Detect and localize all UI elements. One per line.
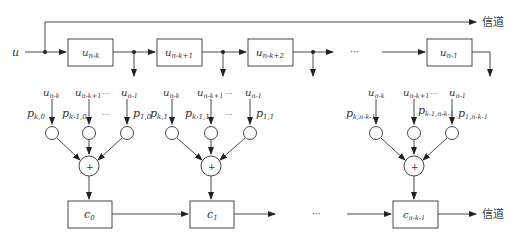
- multiplier-circle: [244, 127, 257, 140]
- svg-text:un-k+1: un-k+1: [197, 87, 223, 100]
- multiplier-circle: [46, 127, 59, 140]
- svg-text:un-k: un-k: [43, 87, 60, 100]
- svg-text:+: +: [86, 162, 94, 172]
- svg-text:un-k+1: un-k+1: [403, 87, 429, 100]
- svg-text:+: +: [208, 162, 216, 172]
- svg-text:p1,1: p1,1: [256, 107, 274, 121]
- svg-text:···: ···: [225, 110, 233, 119]
- svg-text:···: ···: [102, 110, 110, 119]
- input-label: u: [12, 46, 19, 59]
- parity-group-0: + un-k un-k+1 ··· un-1 pk,0 pk-1,0 ··· p…: [27, 87, 188, 228]
- svg-text:un-1: un-1: [121, 87, 138, 100]
- multiplier-circle: [166, 127, 179, 140]
- svg-text:c0: c0: [84, 208, 95, 222]
- ellipsis-bottom: ···: [312, 209, 321, 219]
- svg-text:un-k: un-k: [163, 87, 180, 100]
- svg-text:pk,1: pk,1: [150, 107, 168, 121]
- svg-text:un-k: un-k: [368, 87, 385, 100]
- svg-text:pk-1,0: pk-1,0: [62, 107, 87, 121]
- svg-text:un-1: un-1: [449, 87, 466, 100]
- parity-group-last: + un-k un-k+1 ··· un-1 pk,n-k-1 pk-1,n-k…: [346, 87, 488, 228]
- multiplier-circle: [408, 127, 421, 140]
- svg-text:pk,0: pk,0: [27, 107, 46, 121]
- register-label-0: un-k: [82, 47, 100, 60]
- register-label-1: un-k+1: [165, 47, 193, 60]
- channel-label-top: 信道: [482, 15, 504, 29]
- ellipsis-top: ···: [350, 47, 359, 57]
- svg-text:pk,n-k-1: pk,n-k-1: [346, 107, 376, 121]
- register-label-last: un-1: [440, 47, 458, 60]
- multiplier-circle: [83, 127, 96, 140]
- channel-label-bottom: 信道: [482, 207, 504, 221]
- svg-text:p1,n-k-1: p1,n-k-1: [458, 107, 488, 121]
- svg-text:···: ···: [225, 89, 233, 98]
- multiplier-circle: [446, 127, 459, 140]
- svg-text:+: +: [411, 162, 419, 172]
- register-label-2: un-k+2: [256, 47, 284, 60]
- svg-text:un-1: un-1: [245, 87, 262, 100]
- parity-group-1: + un-k un-k+1 ··· un-1 pk,1 pk-1,1 ··· p…: [150, 87, 275, 228]
- multiplier-circle: [121, 127, 134, 140]
- svg-text:p1,0: p1,0: [133, 107, 152, 121]
- multiplier-circle: [205, 127, 218, 140]
- multiplier-circle: [370, 127, 383, 140]
- svg-text:···: ···: [102, 89, 110, 98]
- svg-text:pk-1,1: pk-1,1: [185, 107, 210, 121]
- svg-text:c1: c1: [207, 208, 218, 222]
- svg-text:···: ···: [430, 89, 438, 98]
- svg-text:un-k+1: un-k+1: [75, 87, 101, 100]
- svg-text:pk-1,n-k-1: pk-1,n-k-1: [418, 104, 454, 118]
- encoder-diagram: u 信道 ··· un-k un-k+1 un-k+2 un-1 + un-k …: [0, 0, 516, 242]
- svg-text:cn-k-1: cn-k-1: [403, 209, 425, 222]
